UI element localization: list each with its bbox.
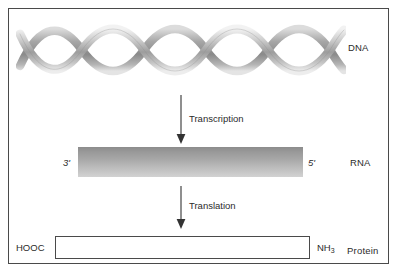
transcription-label: Transcription	[189, 113, 244, 124]
row-label-rna: RNA	[350, 157, 371, 168]
dna-double-helix-illustration	[16, 10, 346, 90]
protein-amino-terminus-text: NH	[317, 242, 331, 253]
protein-amino-terminus-label: NH3	[317, 242, 335, 253]
transcription-arrow-icon	[174, 95, 188, 145]
rna-5-prime-label: 5'	[308, 157, 315, 168]
central-dogma-figure: DNA Transcription 3' 5' RNA Translation …	[0, 0, 402, 277]
protein-carboxyl-terminus-label: HOOC	[16, 242, 45, 253]
rna-3-prime-label: 3'	[63, 157, 70, 168]
translation-arrow-icon	[174, 186, 188, 230]
protein-row: HOOC NH3	[16, 236, 376, 262]
row-label-dna: DNA	[348, 42, 369, 53]
protein-chain-box	[55, 236, 310, 259]
translation-label: Translation	[189, 200, 236, 211]
rna-strand-bar	[78, 147, 303, 177]
protein-amino-terminus-subscript: 3	[331, 247, 335, 254]
row-label-protein: Protein	[347, 245, 379, 256]
